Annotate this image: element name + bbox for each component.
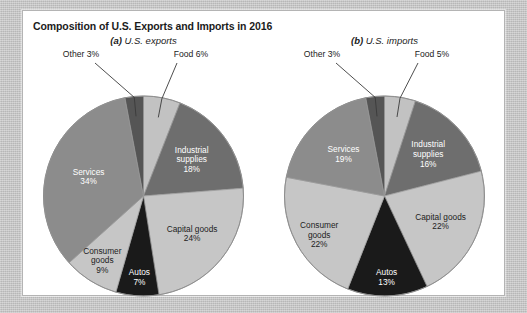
callout-label-food: Food 6% (174, 49, 209, 59)
charts-row: (a) U.S. exports Food 6%Industrialsuppli… (23, 33, 506, 297)
pie-chart-us-exports: Food 6%Industrialsupplies18%Capital good… (23, 33, 264, 297)
callout-label-other: Other 3% (63, 49, 100, 59)
figure-title: Composition of U.S. Exports and Imports … (33, 20, 272, 32)
slice-label-autos: Autos13% (376, 267, 397, 287)
chart-block-us-imports: (b) U.S. imports Food 5%Industrialsuppli… (264, 33, 505, 297)
figure-panel: Composition of U.S. Exports and Imports … (22, 10, 505, 296)
pie-slices-us-exports (44, 96, 244, 296)
pie-slices-us-imports (284, 96, 484, 296)
chart-block-us-exports: (a) U.S. exports Food 6%Industrialsuppli… (23, 33, 264, 297)
callout-label-food: Food 5% (415, 49, 450, 59)
pie-chart-us-imports: Food 5%Industrialsupplies16%Capital good… (264, 33, 505, 297)
callout-label-other: Other 3% (304, 49, 341, 59)
